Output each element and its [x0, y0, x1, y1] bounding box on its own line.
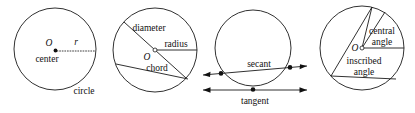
circle-outline-3	[215, 10, 291, 86]
central-angle-label-line2: angle	[372, 37, 393, 47]
radius-variable-label: r	[74, 37, 78, 47]
center-point-label-2: O	[144, 52, 151, 62]
circle-label: circle	[73, 86, 94, 96]
inscribed-angle-label-line2: angle	[354, 67, 375, 77]
secant-arrowhead-right	[300, 64, 307, 69]
tangent-line-group	[203, 87, 307, 93]
panel-center-radius	[14, 8, 96, 90]
center-point-dot-2	[153, 48, 157, 52]
center-point-dot-4	[360, 46, 364, 50]
secant-label: secant	[247, 59, 271, 69]
tangent-arrowhead-left	[203, 87, 211, 93]
tangent-point-of-tangency	[251, 87, 256, 92]
center-point-label-1: O	[46, 38, 53, 48]
figure-canvas: O r center circle diameter radius O chor…	[0, 0, 415, 113]
secant-intersection-point-left	[219, 71, 224, 76]
secant-intersection-point-right	[288, 65, 293, 70]
tangent-arrowhead-right	[300, 87, 308, 93]
center-label: center	[35, 54, 59, 64]
panel-angles	[320, 6, 404, 90]
central-angle-label-line1: central	[369, 26, 395, 36]
center-point-dot-1	[54, 49, 58, 53]
diameter-label: diameter	[132, 23, 166, 33]
panel-secant-tangent	[203, 10, 307, 93]
panel-diameter-radius-chord	[113, 8, 197, 92]
circle-terms-figure: O r center circle diameter radius O chor…	[0, 0, 415, 113]
inscribed-angle-label-line1: inscribed	[347, 56, 382, 66]
center-point-label-4: O	[352, 43, 359, 53]
chord-label: chord	[146, 63, 168, 73]
tangent-label: tangent	[241, 96, 269, 106]
secant-arrowhead-left	[203, 72, 211, 77]
radius-label: radius	[164, 39, 188, 49]
